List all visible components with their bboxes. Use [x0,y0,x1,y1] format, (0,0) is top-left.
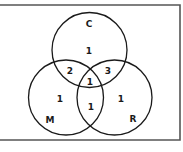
region-c-only: 1 [86,46,92,56]
venn-diagram: C M R 1 1 1 2 3 1 1 [0,0,183,152]
set-label-r: R [130,114,137,124]
set-label-m: M [46,115,55,125]
region-r-only: 1 [118,94,124,104]
set-label-c: C [86,19,93,29]
region-c-and-m: 2 [67,66,73,76]
circle-r [77,60,152,135]
region-m-only: 1 [57,94,63,104]
region-c-and-r: 3 [105,66,111,76]
region-m-and-r: 1 [88,102,94,112]
region-c-m-r: 1 [87,77,93,87]
